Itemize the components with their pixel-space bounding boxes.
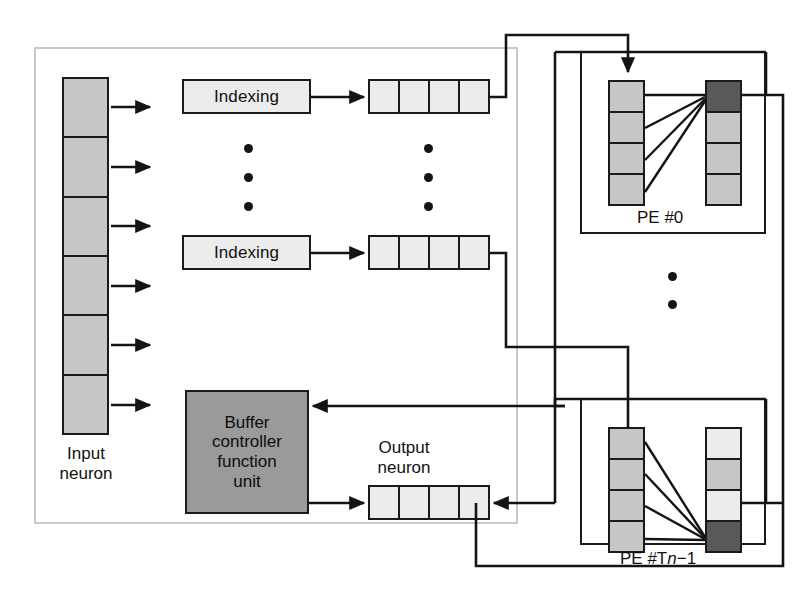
pe-last-synapse-line (645, 539, 705, 540)
pe-last-synapse-line (645, 474, 705, 538)
diagram-canvas: Input neuron Indexing Indexing Buffer co… (0, 0, 811, 594)
pe0-synapse-line (645, 99, 705, 160)
wire-vector-top-to-pe0 (490, 35, 628, 97)
pe0-synapse-line (645, 101, 705, 192)
wire-pe0-output-return (476, 95, 783, 566)
connection-wires (0, 0, 811, 594)
wire-pe0-ring-left (555, 52, 565, 406)
wire-vector-bottom-to-pe-last (490, 253, 628, 427)
